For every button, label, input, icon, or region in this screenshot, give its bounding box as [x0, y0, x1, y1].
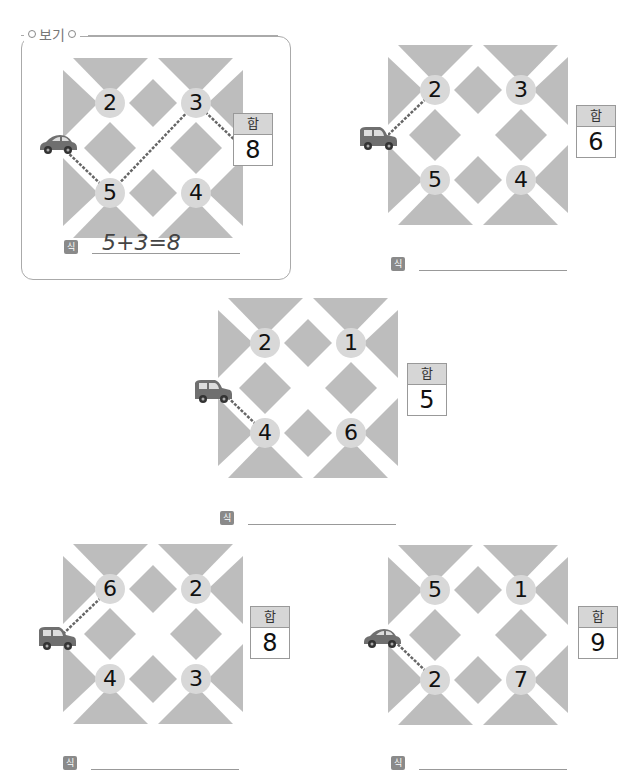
car-icon	[37, 625, 77, 655]
number-bottom-left[interactable]: 4	[250, 418, 280, 448]
road-board	[388, 45, 568, 229]
car-icon	[193, 378, 233, 408]
equation-row: 식5+3=8	[64, 232, 240, 254]
equation-input[interactable]	[419, 249, 567, 271]
equation-badge: 식	[64, 240, 78, 254]
road-board	[63, 544, 243, 728]
sum-box: 합9	[578, 606, 618, 659]
equation-row: 식	[391, 748, 567, 770]
number-bottom-left[interactable]: 5	[95, 178, 125, 208]
number-top-right[interactable]: 2	[181, 574, 211, 604]
number-top-left[interactable]: 2	[250, 328, 280, 358]
number-top-right[interactable]: 3	[181, 88, 211, 118]
equation-input[interactable]	[91, 748, 239, 770]
number-top-right[interactable]: 1	[336, 328, 366, 358]
example-legend-label: 보기	[39, 24, 65, 44]
equation-row: 식	[220, 503, 396, 525]
equation-row: 식	[391, 249, 567, 271]
number-top-right[interactable]: 1	[506, 575, 536, 605]
sum-value: 8	[251, 628, 289, 658]
example-border-top	[88, 35, 278, 36]
number-bottom-left[interactable]: 5	[420, 165, 450, 195]
sum-box: 합8	[233, 113, 273, 166]
ring-icon	[68, 30, 76, 38]
example-legend: 보기	[24, 24, 80, 44]
sum-header: 합	[408, 364, 446, 385]
car-icon	[358, 125, 398, 155]
sum-value: 6	[577, 127, 615, 157]
equation-row: 식	[63, 748, 239, 770]
number-bottom-right[interactable]: 6	[336, 418, 366, 448]
equation-input[interactable]	[248, 503, 396, 525]
number-top-right[interactable]: 3	[506, 75, 536, 105]
road-board	[63, 58, 243, 242]
car-icon	[362, 627, 402, 653]
ring-icon	[28, 30, 36, 38]
number-top-left[interactable]: 2	[95, 88, 125, 118]
number-bottom-right[interactable]: 4	[506, 165, 536, 195]
sum-header: 합	[251, 607, 289, 628]
equation-input[interactable]	[419, 748, 567, 770]
number-bottom-right[interactable]: 7	[506, 665, 536, 695]
equation-badge: 식	[63, 756, 77, 770]
sum-header: 합	[577, 106, 615, 127]
equation-badge: 식	[220, 511, 234, 525]
number-top-left[interactable]: 2	[420, 75, 450, 105]
number-bottom-left[interactable]: 2	[420, 665, 450, 695]
number-bottom-right[interactable]: 4	[181, 178, 211, 208]
equation-input[interactable]: 5+3=8	[92, 232, 240, 254]
equation-badge: 식	[391, 756, 405, 770]
equation-badge: 식	[391, 257, 405, 271]
sum-value: 9	[579, 628, 617, 658]
sum-value: 8	[234, 135, 272, 165]
sum-value: 5	[408, 385, 446, 415]
sum-box: 합8	[250, 606, 290, 659]
road-board	[388, 545, 568, 729]
road-board	[218, 298, 398, 482]
number-top-left[interactable]: 5	[420, 575, 450, 605]
number-bottom-right[interactable]: 3	[181, 664, 211, 694]
sum-box: 합5	[407, 363, 447, 416]
sum-box: 합6	[576, 105, 616, 158]
sum-header: 합	[579, 607, 617, 628]
car-icon	[38, 133, 78, 159]
number-bottom-left[interactable]: 4	[95, 664, 125, 694]
number-top-left[interactable]: 6	[95, 574, 125, 604]
sum-header: 합	[234, 114, 272, 135]
